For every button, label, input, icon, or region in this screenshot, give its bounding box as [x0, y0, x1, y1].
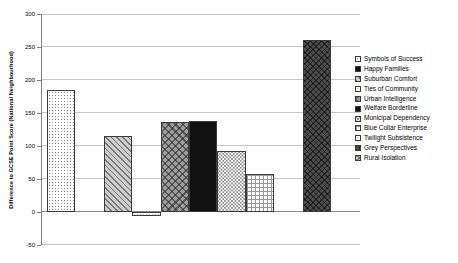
legend-item-grey-perspectives: Grey Perspectives	[355, 145, 430, 152]
legend-swatch-welfare-borderline	[355, 106, 361, 112]
legend-label-municipal-dependency: Municipal Dependency	[364, 115, 430, 122]
legend-item-blue-collar-enterprise: Blue Collar Enterprise	[355, 125, 430, 132]
bar-ties-of-community	[132, 212, 161, 216]
legend-item-happy-families: Happy Families	[355, 66, 430, 73]
legend-item-suburban-comfort: Suburban Comfort	[355, 76, 430, 83]
legend-label-symbols-of-success: Symbols of Success	[364, 56, 423, 63]
y-axis-title: Difference to GCSE Point Score (National…	[8, 51, 14, 209]
legend-item-ties-of-community: Ties of Community	[355, 86, 430, 93]
y-tick-label-100: 100	[0, 143, 35, 150]
y-tick-mark-50	[37, 179, 41, 180]
y-tick-label-300: 300	[0, 11, 35, 18]
y-tick-mark-100	[37, 146, 41, 147]
y-tick-mark-150	[37, 113, 41, 114]
legend-swatch-urban-intelligence	[355, 96, 361, 102]
legend-label-grey-perspectives: Grey Perspectives	[364, 145, 417, 152]
y-tick-label--50: -50	[0, 242, 35, 249]
legend-swatch-ties-of-community	[355, 86, 361, 92]
bar-chart: Difference to GCSE Point Score (National…	[0, 0, 458, 263]
y-tick-label-50: 50	[0, 176, 35, 183]
gridline-300	[42, 14, 360, 15]
y-tick-mark-200	[37, 80, 41, 81]
legend-item-welfare-borderline: Welfare Borderline	[355, 105, 430, 112]
legend-label-urban-intelligence: Urban Intelligence	[364, 96, 416, 103]
gridline--50	[42, 244, 360, 245]
bar-welfare-borderline	[189, 121, 217, 212]
y-tick-mark-0	[37, 212, 41, 213]
legend-label-welfare-borderline: Welfare Borderline	[364, 105, 418, 112]
legend-item-twilight-subsistence: Twilight Subsistence	[355, 135, 430, 142]
legend-item-symbols-of-success: Symbols of Success	[355, 56, 430, 63]
legend: Symbols of SuccessHappy FamiliesSuburban…	[355, 56, 430, 165]
bar-symbols-of-success	[47, 90, 75, 212]
bar-blue-collar-enterprise	[246, 174, 274, 212]
legend-swatch-municipal-dependency	[355, 116, 361, 122]
bar-urban-intelligence	[161, 122, 189, 212]
legend-swatch-rural-isolation	[355, 155, 361, 161]
legend-label-happy-families: Happy Families	[364, 66, 409, 73]
legend-swatch-symbols-of-success	[355, 56, 361, 62]
bar-grey-perspectives	[303, 40, 331, 212]
y-tick-label-150: 150	[0, 110, 35, 117]
legend-item-rural-isolation: Rural Isolation	[355, 155, 430, 162]
bar-suburban-comfort	[104, 136, 132, 212]
legend-swatch-suburban-comfort	[355, 76, 361, 82]
bar-municipal-dependency	[217, 151, 246, 212]
legend-label-rural-isolation: Rural Isolation	[364, 155, 406, 162]
y-tick-label-0: 0	[0, 209, 35, 216]
legend-swatch-twilight-subsistence	[355, 135, 361, 141]
legend-item-municipal-dependency: Municipal Dependency	[355, 115, 430, 122]
y-tick-label-200: 200	[0, 77, 35, 84]
legend-swatch-happy-families	[355, 66, 361, 72]
legend-item-urban-intelligence: Urban Intelligence	[355, 96, 430, 103]
legend-label-suburban-comfort: Suburban Comfort	[364, 76, 417, 83]
y-tick-mark-250	[37, 47, 41, 48]
legend-label-twilight-subsistence: Twilight Subsistence	[364, 135, 423, 142]
legend-label-blue-collar-enterprise: Blue Collar Enterprise	[364, 125, 427, 132]
y-tick-mark-300	[37, 14, 41, 15]
y-tick-mark--50	[37, 245, 41, 246]
legend-label-ties-of-community: Ties of Community	[364, 86, 418, 93]
y-tick-label-250: 250	[0, 44, 35, 51]
plot-area	[41, 14, 360, 245]
legend-swatch-blue-collar-enterprise	[355, 125, 361, 131]
legend-swatch-grey-perspectives	[355, 145, 361, 151]
